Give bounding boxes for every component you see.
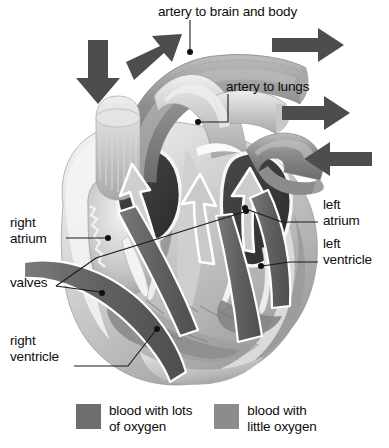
dot-valve-lower: [99, 290, 105, 296]
legend-label-oxygen-rich: blood with lots of oxygen: [109, 403, 192, 434]
label-artery-to-brain-and-body: artery to brain and body: [158, 4, 297, 20]
dot-right-ventricle: [154, 326, 160, 332]
legend-label-oxygen-poor: blood with little oxygen: [247, 403, 316, 434]
legend-swatch-oxygen-poor: [214, 404, 239, 429]
legend: blood with lots of oxygen blood with lit…: [76, 403, 317, 434]
label-left-ventricle: left ventricle: [323, 236, 372, 267]
dot-right-atrium: [105, 235, 111, 241]
legend-item-oxygen-poor: blood with little oxygen: [214, 403, 316, 434]
label-right-atrium: right atrium: [10, 215, 47, 246]
legend-item-oxygen-rich: blood with lots of oxygen: [76, 403, 192, 434]
label-valves: valves: [10, 275, 47, 291]
pulmonary-artery-outflow-arrow: [282, 96, 350, 130]
dot-artery-brain: [187, 49, 193, 55]
label-artery-to-lungs: artery to lungs: [226, 79, 309, 95]
vena-cava-inflow-arrow: [76, 40, 120, 104]
dot-left-atrium: [242, 205, 248, 211]
dot-artery-lungs: [195, 119, 201, 125]
label-left-atrium: left atrium: [323, 197, 360, 228]
legend-swatch-oxygen-rich: [76, 404, 101, 429]
vena-cava-rim: [96, 109, 140, 127]
label-right-ventricle: right ventricle: [10, 333, 59, 364]
heart-diagram-page: artery to brain and body artery to lungs…: [0, 0, 389, 448]
aorta-outflow-right-arrow: [272, 28, 344, 62]
dot-left-ventricle: [258, 263, 264, 269]
